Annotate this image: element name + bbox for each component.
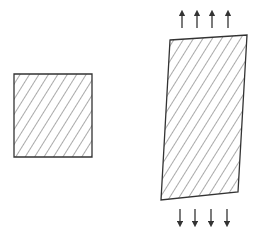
parallelogram-shape [161,35,247,200]
deformed-element [161,35,247,200]
rectangle-shape [14,74,92,157]
tension-arrows-up [182,13,228,28]
undeformed-element [14,74,92,157]
diagram-svg [0,0,257,231]
tension-arrows-down [180,209,227,224]
diagram-canvas [0,0,257,231]
